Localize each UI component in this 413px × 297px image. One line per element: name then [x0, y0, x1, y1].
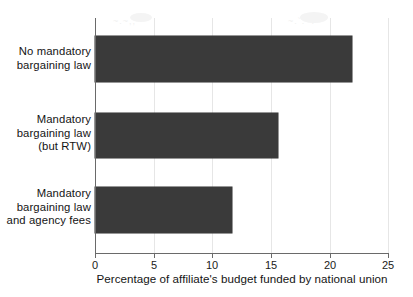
x-tick-label-25: 25 — [382, 259, 394, 272]
category-label-mandatory-bargaining-law-agency: Mandatory bargaining law and agency fees — [7, 187, 91, 228]
x-tick-label-15: 15 — [265, 259, 277, 272]
y-axis-line — [95, 18, 96, 254]
bar-chart: ~.~,, ~.`.~. 0 5 10 15 20 25 No mandator… — [0, 0, 413, 297]
bar-mandatory-bargaining-law-agency — [95, 187, 232, 233]
x-tick-mark-5 — [154, 253, 155, 258]
bar-no-mandatory-bargaining-law — [95, 36, 352, 82]
x-tick-mark-25 — [388, 253, 389, 258]
gridline-25 — [388, 18, 389, 253]
x-tick-label-5: 5 — [151, 259, 157, 272]
bar-mandatory-bargaining-law-rtw — [95, 113, 278, 158]
x-axis-line — [95, 253, 389, 254]
x-tick-label-20: 20 — [324, 259, 336, 272]
x-tick-mark-10 — [212, 253, 213, 258]
x-tick-label-10: 10 — [206, 259, 218, 272]
x-tick-mark-20 — [330, 253, 331, 258]
category-label-mandatory-bargaining-law-rtw: Mandatory bargaining law (but RTW) — [17, 113, 91, 154]
x-tick-label-0: 0 — [92, 259, 98, 272]
x-axis-title: Percentage of affiliate's budget funded … — [95, 272, 389, 285]
plot-area — [95, 18, 388, 253]
category-label-no-mandatory-bargaining-law: No mandatory bargaining law — [17, 45, 91, 72]
x-tick-mark-0 — [95, 253, 96, 258]
x-tick-mark-15 — [271, 253, 272, 258]
